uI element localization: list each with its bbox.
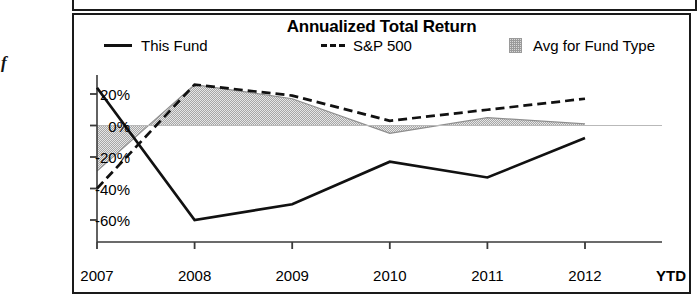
x-tick-label: 2012 bbox=[568, 268, 601, 283]
x-tick-label: 2009 bbox=[276, 268, 309, 283]
avg-for-fund-type-area bbox=[97, 85, 585, 172]
y-axis-tick-labels: 20%0%-20%-40%-60% bbox=[50, 15, 130, 296]
x-axis-ytd-label: YTD bbox=[656, 268, 686, 283]
y-tick-label: 20% bbox=[66, 87, 130, 102]
series-line-s-p-500 bbox=[97, 85, 585, 189]
orphan-text-glyph: f bbox=[1, 54, 17, 71]
x-axis-tick-labels: 200720082009201020112012 bbox=[74, 268, 693, 292]
x-tick-label: 2008 bbox=[178, 268, 211, 283]
avg-for-fund-type-line bbox=[97, 85, 585, 172]
y-tick-label: -60% bbox=[66, 213, 130, 228]
x-tick-label: 2010 bbox=[373, 268, 406, 283]
y-tick-label: -40% bbox=[66, 181, 130, 196]
y-tick-label: 0% bbox=[66, 118, 130, 133]
annualized-total-return-chart: Annualized Total Return This Fund S&P 50… bbox=[72, 13, 691, 294]
x-tick-label: 2007 bbox=[80, 268, 113, 283]
plot-svg bbox=[74, 15, 693, 296]
x-tick-label: 2011 bbox=[471, 268, 503, 283]
page-top-frame-stub bbox=[72, 0, 697, 11]
plot-area: 20%0%-20%-40%-60% 2007200820092010201120… bbox=[74, 15, 693, 296]
y-tick-label: -20% bbox=[66, 150, 130, 165]
